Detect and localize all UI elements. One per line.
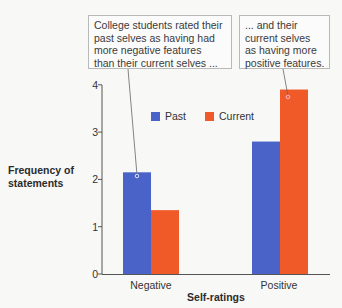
bar-negative-current (151, 210, 179, 274)
x-axis-label: Self-ratings (166, 291, 266, 303)
bar-positive-current (280, 90, 308, 274)
x-category-positive: Positive (239, 279, 319, 291)
legend-item-current: Current (205, 110, 254, 122)
legend-swatch-past (151, 112, 160, 121)
y-tick-1: 1 (86, 221, 98, 233)
legend-swatch-current (205, 112, 214, 121)
y-tick-2: 2 (86, 173, 98, 185)
legend-item-past: Past (151, 110, 186, 122)
bar-chart (0, 0, 342, 308)
y-axis-label: Frequency of statements (8, 164, 74, 190)
y-tick-3: 3 (86, 126, 98, 138)
bar-positive-past (252, 142, 280, 274)
y-axis-ticks (98, 85, 102, 274)
leader-line-negative (128, 69, 137, 175)
legend-label-current: Current (219, 110, 254, 122)
bar-negative-past (123, 172, 151, 274)
y-tick-4: 4 (86, 79, 98, 91)
y-tick-0: 0 (86, 268, 98, 280)
legend-label-past: Past (165, 110, 186, 122)
x-category-negative: Negative (111, 279, 191, 291)
